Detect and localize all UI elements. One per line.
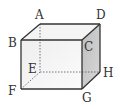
cube-diagram: A D B C E H F G <box>0 0 120 109</box>
vertex-label-e: E <box>28 62 37 76</box>
vertex-label-h: H <box>103 66 113 80</box>
vertex-label-a: A <box>34 8 44 22</box>
vertex-label-d: D <box>96 8 106 22</box>
vertex-label-c: C <box>84 40 93 54</box>
vertex-label-b: B <box>8 36 17 50</box>
vertex-label-f: F <box>8 84 16 98</box>
vertex-label-g: G <box>82 91 92 105</box>
